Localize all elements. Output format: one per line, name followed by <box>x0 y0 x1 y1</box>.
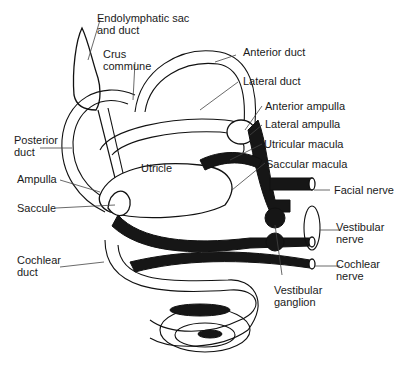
label-saccule: Saccule <box>17 202 56 214</box>
facial-nerve-shape <box>270 178 312 190</box>
label-crus-commune: Crus commune <box>103 48 151 72</box>
label-utricle: Utricle <box>141 162 172 174</box>
label-lateral-duct: Lateral duct <box>243 75 300 87</box>
label-anterior-duct: Anterior duct <box>243 46 305 58</box>
inner-ear-diagram: Endolymphatic sac and duct Crus commune … <box>0 0 403 369</box>
label-facial-nerve: Facial nerve <box>334 184 394 196</box>
label-vestibular-nerve: Vestibular nerve <box>336 221 384 245</box>
label-saccular-macula: Saccular macula <box>266 158 347 170</box>
label-vestibular-ganglion: Vestibular ganglion <box>274 284 322 308</box>
endolymphatic-sac-shape <box>73 28 100 110</box>
label-anterior-ampulla: Anterior ampulla <box>265 100 345 112</box>
label-lateral-ampulla: Lateral ampulla <box>265 118 340 130</box>
label-utricular-macula: Utricular macula <box>264 138 343 150</box>
label-posterior-duct: Posterior duct <box>14 134 58 158</box>
label-endolymphatic-sac: Endolymphatic sac and duct <box>97 12 189 36</box>
label-ampulla: Ampulla <box>17 173 57 185</box>
label-cochlear-duct: Cochlear duct <box>17 254 61 278</box>
label-cochlear-nerve: Cochlear nerve <box>336 258 380 282</box>
anterior-duct-shape <box>135 51 256 125</box>
